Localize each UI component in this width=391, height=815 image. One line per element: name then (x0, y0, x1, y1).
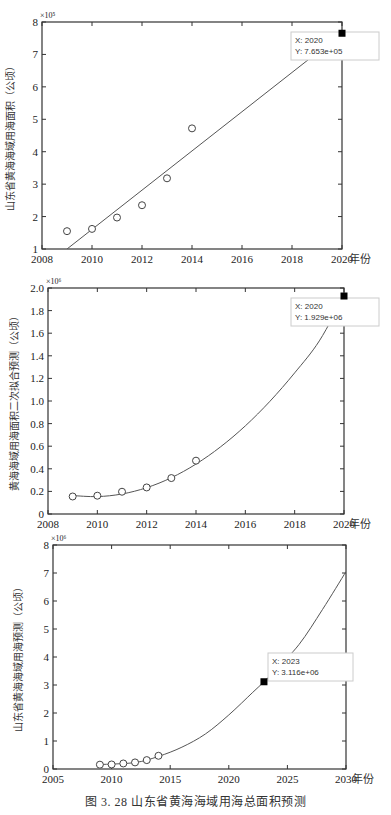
data-point-marker (143, 757, 150, 764)
data-point-marker (108, 761, 115, 768)
x-tick-label: 2015 (159, 773, 182, 785)
y-tick-label: 8 (44, 539, 50, 551)
x-tick-label: 2020 (218, 773, 241, 785)
y-tick-label: 4 (44, 651, 50, 663)
y-multiplier: ×10⁶ (51, 534, 67, 543)
y-tick-label: 1 (44, 735, 50, 747)
y-tick-label: 2 (44, 707, 50, 719)
y-axis-label: 山东省黄海海域用海预测（公顷） (12, 582, 24, 732)
chart-forecast-2030: 200520102015202020252030012345678×10⁶年份山… (0, 0, 391, 790)
x-tick-label: 2025 (276, 773, 299, 785)
chart-3-plot: 200520102015202020252030012345678×10⁶年份山… (12, 534, 374, 786)
y-tick-label: 3 (44, 679, 50, 691)
data-point-marker (120, 760, 127, 767)
x-axis-label: 年份 (352, 772, 374, 786)
datatip-x: X: 2023 (272, 657, 300, 666)
x-tick-label: 2010 (101, 773, 124, 785)
chart-3-canvas: 200520102015202020252030012345678×10⁶年份山… (0, 0, 391, 790)
data-point-marker (96, 761, 103, 768)
datatip-marker[interactable] (260, 678, 267, 685)
y-tick-label: 0 (44, 763, 50, 775)
figure-caption: 图 3. 28 山东省黄海海域用海总面积预测 (0, 792, 391, 810)
y-tick-label: 6 (44, 595, 50, 607)
data-point-marker (155, 752, 162, 759)
y-tick-label: 7 (44, 567, 50, 579)
datatip-y: Y: 3.116e+06 (272, 668, 319, 677)
y-tick-label: 5 (44, 623, 50, 635)
data-point-marker (132, 759, 139, 766)
